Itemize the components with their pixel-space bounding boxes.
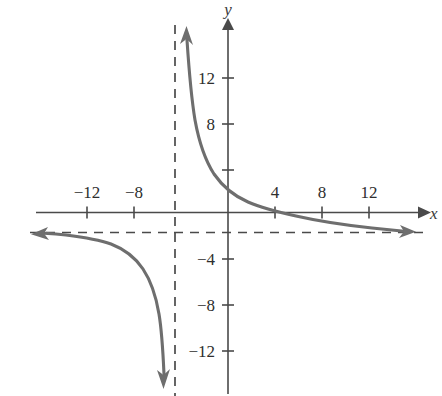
y-tick-label--8: −8: [197, 296, 215, 315]
x-tick-label-12: 12: [361, 183, 378, 202]
x-tick-label--12: −12: [74, 183, 101, 202]
y-tick-label--4: −4: [197, 250, 216, 269]
curve-lower-left-branch: [44, 233, 164, 374]
graph-figure: −12 −8 4 8 12 12 8 −4 −8 −12 x y: [0, 0, 442, 396]
x-axis-label: x: [429, 204, 438, 223]
x-tick-label--8: −8: [125, 183, 143, 202]
x-tick-label-4: 4: [271, 183, 280, 202]
coordinate-plane: −12 −8 4 8 12 12 8 −4 −8 −12 x y: [0, 0, 442, 396]
curve-upper-right-branch: [187, 40, 404, 231]
x-tick-label-8: 8: [318, 183, 327, 202]
y-tick-label-8: 8: [207, 115, 216, 134]
y-tick-label--12: −12: [188, 342, 215, 361]
y-tick-label-12: 12: [198, 69, 215, 88]
y-axis-arrow-icon: [222, 18, 234, 30]
y-axis-label: y: [222, 0, 232, 19]
